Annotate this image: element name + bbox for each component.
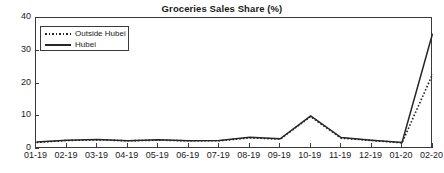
x-axis-tick-mark: [188, 143, 189, 148]
y-axis-tick-mark: [35, 17, 39, 18]
y-axis-tick-labels: 010203040: [0, 0, 31, 173]
x-axis-tick-mark: [371, 143, 372, 148]
y-axis-tick-label: 30: [3, 45, 31, 54]
chart-figure: Groceries Sales Share (%) 010203040 Outs…: [0, 0, 444, 173]
legend-label-outside-hubei: Outside Hubei: [75, 28, 126, 39]
y-axis-tick-mark: [35, 83, 39, 84]
x-axis-tick-mark: [127, 143, 128, 148]
x-axis-tick-mark: [218, 143, 219, 148]
x-axis-tick-mark: [279, 143, 280, 148]
y-axis-tick-label: 10: [3, 110, 31, 119]
legend-swatch-dotted: [45, 33, 71, 35]
x-axis-tick-mark: [432, 143, 433, 148]
y-axis-tick-mark: [35, 50, 39, 51]
legend-swatch-solid: [45, 44, 71, 46]
chart-title: Groceries Sales Share (%): [0, 3, 444, 14]
x-axis-tick-mark: [310, 143, 311, 148]
x-axis-tick-mark: [249, 143, 250, 148]
x-axis-tick-mark: [401, 143, 402, 148]
series-line-outside-hubei: [37, 74, 433, 142]
legend-label-hubei: Hubei: [75, 39, 96, 50]
y-axis-tick-label: 40: [3, 12, 31, 21]
y-axis-tick-mark: [35, 115, 39, 116]
legend-item-hubei: Hubei: [41, 39, 130, 50]
x-axis-tick-mark: [96, 143, 97, 148]
x-axis-tick-mark: [66, 143, 67, 148]
x-axis-tick-mark: [340, 143, 341, 148]
y-axis-tick-label: 20: [3, 78, 31, 87]
x-axis-tick-labels: 01-1902-1903-1904-1905-1906-1907-1908-19…: [0, 150, 444, 164]
x-axis-tick-label: 02-20: [410, 150, 444, 161]
y-axis-tick-mark: [35, 148, 39, 149]
legend-item-outside-hubei: Outside Hubei: [41, 28, 130, 39]
chart-legend: Outside Hubei Hubei: [40, 26, 129, 51]
x-axis-tick-mark: [157, 143, 158, 148]
